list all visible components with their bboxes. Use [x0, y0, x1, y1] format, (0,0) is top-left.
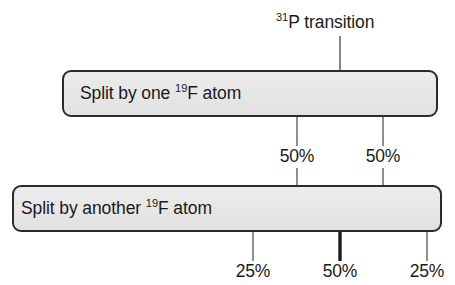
stage-two-percent-right: 25% — [401, 263, 453, 281]
tree-lines-svg — [0, 0, 455, 285]
stage-one-label-text: Split by one 19F atom — [80, 85, 241, 103]
stage-two-label-text: Split by another 19F atom — [21, 200, 212, 218]
stage-two-label-suffix: F atom — [158, 198, 212, 218]
title-superscript: 31 — [276, 11, 288, 23]
diagram-title: 31P transition — [276, 14, 374, 32]
stage-two-percent-center: 50% — [314, 263, 366, 281]
stage-two-label-prefix: Split by another — [21, 198, 146, 218]
stage-two-percent-left: 25% — [227, 263, 279, 281]
stage-one-percent-right: 50% — [357, 148, 409, 166]
stage-one-label-suffix: F atom — [187, 83, 241, 103]
stage-one-percent-left: 50% — [271, 148, 323, 166]
stage-one-label-superscript: 19 — [175, 82, 187, 94]
title-main-text: P transition — [288, 12, 374, 32]
stage-one-label-box: Split by one 19F atom — [62, 70, 438, 117]
stage-two-label-box: Split by another 19F atom — [12, 185, 442, 232]
splitting-tree-diagram: 31P transition Split by one 19F atom 50%… — [0, 0, 455, 285]
stage-two-label-superscript: 19 — [146, 197, 158, 209]
stage-one-label-prefix: Split by one — [80, 83, 175, 103]
